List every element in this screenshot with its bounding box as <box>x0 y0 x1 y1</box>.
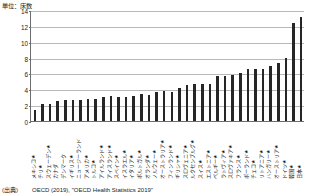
x-axis-tick-label: リトアニア★ <box>257 149 264 179</box>
source-text: OECD (2019), "OECD Health Statistics 201… <box>32 187 153 193</box>
bar <box>94 99 97 121</box>
x-axis-tick-label: オーストラリア★ <box>158 139 165 179</box>
source-note: (出典)OECD (2019), "OECD Health Statistics… <box>2 185 153 194</box>
x-axis-tick-label: トルコ★ <box>89 159 96 179</box>
bar <box>79 100 82 121</box>
bar <box>56 101 59 121</box>
bar <box>209 84 212 121</box>
bar <box>110 96 113 121</box>
bar <box>216 76 219 121</box>
x-axis-tick-label: 韓国★ <box>287 164 294 179</box>
x-axis-tick-label: カナダ <box>51 164 58 179</box>
bar <box>231 75 234 121</box>
x-axis-tick-label: ドイツ★ <box>280 159 287 179</box>
x-axis-tick-label: アメリカ★ <box>82 154 89 179</box>
x-axis-tick-label: オランダ★ <box>143 154 150 179</box>
bar <box>292 23 295 121</box>
x-axis-tick-label: ニュージーランド <box>74 139 81 179</box>
bar <box>125 97 128 121</box>
x-axis-tick-label: 日本★ <box>295 164 302 179</box>
x-axis-labels: メキシコ★チリ★スウェーデン★カナダデンマークイギリス★ニュージーランドアメリカ… <box>30 123 304 180</box>
x-axis-tick-label: ラトヴィア★ <box>219 149 226 179</box>
x-axis-tick-label: ギリシャ★ <box>173 154 180 179</box>
x-axis-tick-label: フィンランド★ <box>166 144 173 179</box>
bar <box>201 84 204 121</box>
y-axis-tick-label: 4 <box>24 87 28 94</box>
bar <box>34 110 37 121</box>
x-axis-tick-label: スウェーデン★ <box>44 144 51 179</box>
chart-figure: 単位：床数 02468101214 メキシコ★チリ★スウェーデン★カナダデンマー… <box>0 0 310 196</box>
bar <box>49 104 52 121</box>
x-axis-tick-label: イタリア★ <box>127 154 134 179</box>
x-axis-tick-label: アイルランド★ <box>97 144 104 179</box>
x-axis-tick-label: ノルウェー★ <box>150 149 157 179</box>
bar <box>163 91 166 121</box>
bar <box>300 17 303 121</box>
bar <box>102 97 105 121</box>
y-axis-tick-label: 12 <box>21 23 28 30</box>
bar <box>262 69 265 121</box>
bar <box>178 88 181 121</box>
x-axis-tick-label: ポルトガル★ <box>135 149 142 179</box>
bar <box>186 85 189 121</box>
x-axis-tick-label: ハンガリー★ <box>264 149 271 179</box>
y-axis-tick-label: 10 <box>21 39 28 46</box>
bar <box>285 58 288 121</box>
bar <box>224 76 227 121</box>
bar <box>117 97 120 121</box>
bar <box>132 96 135 121</box>
bar <box>254 69 257 121</box>
bar <box>155 92 158 121</box>
x-axis-tick-label: スロヴェニア★ <box>181 144 188 179</box>
x-axis-tick-label: オーストリア★ <box>272 144 279 179</box>
bar <box>277 63 280 121</box>
bars-layer <box>31 11 304 121</box>
x-axis-tick-label: イスラエル★ <box>120 149 127 179</box>
x-axis-tick-label: スイス★ <box>196 159 203 179</box>
x-axis-tick-label: エストニア★ <box>204 149 211 179</box>
x-axis-tick-label: ポーランド★ <box>242 149 249 179</box>
bar <box>269 66 272 122</box>
bar <box>72 100 75 121</box>
bar <box>87 99 90 121</box>
x-axis-tick-label: スペイン★ <box>112 154 119 179</box>
y-axis-tick-label: 6 <box>24 71 28 78</box>
x-axis-tick-label: スロヴァキア★ <box>226 144 233 179</box>
x-axis-tick-label: イギリス★ <box>67 154 74 179</box>
plot-area: 02468101214 <box>30 11 304 122</box>
bar <box>247 69 250 121</box>
y-axis-tick-label: 14 <box>21 8 28 15</box>
bar <box>41 104 44 121</box>
bar <box>239 73 242 121</box>
bar <box>140 94 143 121</box>
x-axis-tick-label: デンマーク <box>59 154 66 179</box>
x-axis-tick-label: チェコ★ <box>249 159 256 179</box>
y-axis-tick-label: 0 <box>24 119 28 126</box>
x-axis-tick-label: フランス★ <box>234 154 241 179</box>
bar <box>193 84 196 121</box>
bar <box>148 95 151 121</box>
y-axis-tick-label: 2 <box>24 103 28 110</box>
x-axis-tick-label: メキシコ★ <box>29 154 36 179</box>
x-axis-tick-label: ベルギー★ <box>211 154 218 179</box>
bar <box>171 92 174 121</box>
x-axis-tick-label: ルクセンブルグ★ <box>188 139 195 179</box>
x-axis-tick-label: チリ★ <box>36 164 43 179</box>
y-axis-tick-label: 8 <box>24 55 28 62</box>
source-tag: (出典) <box>2 185 32 194</box>
x-axis-tick-label: アイスランド★ <box>105 144 112 179</box>
bar <box>64 100 67 121</box>
